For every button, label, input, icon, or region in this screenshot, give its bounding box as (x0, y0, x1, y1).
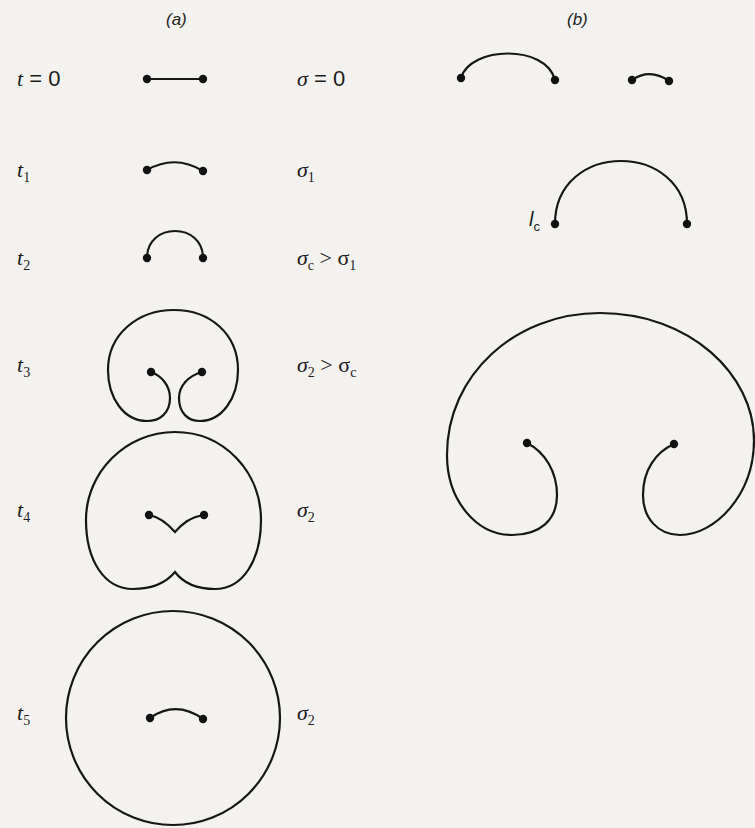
segment-t1 (143, 162, 207, 175)
dislocation-drawings (0, 0, 755, 828)
segment-t5 (66, 611, 280, 825)
segment-t2 (143, 231, 207, 262)
pinning-point-icon (199, 75, 207, 83)
b-long-arc (457, 54, 559, 85)
segment-t4 (86, 432, 261, 589)
segment-t3 (108, 310, 238, 421)
frank-read-figure: (a) (b) t = 0 t1 t2 t3 t4 t5 σ = 0 σ1 σc… (0, 0, 755, 828)
segment-t0 (143, 75, 207, 83)
b-critical-semicircle (551, 161, 691, 228)
b-expanding-loop (447, 313, 754, 535)
b-short-arc (628, 74, 673, 85)
pinning-point-icon (143, 75, 151, 83)
